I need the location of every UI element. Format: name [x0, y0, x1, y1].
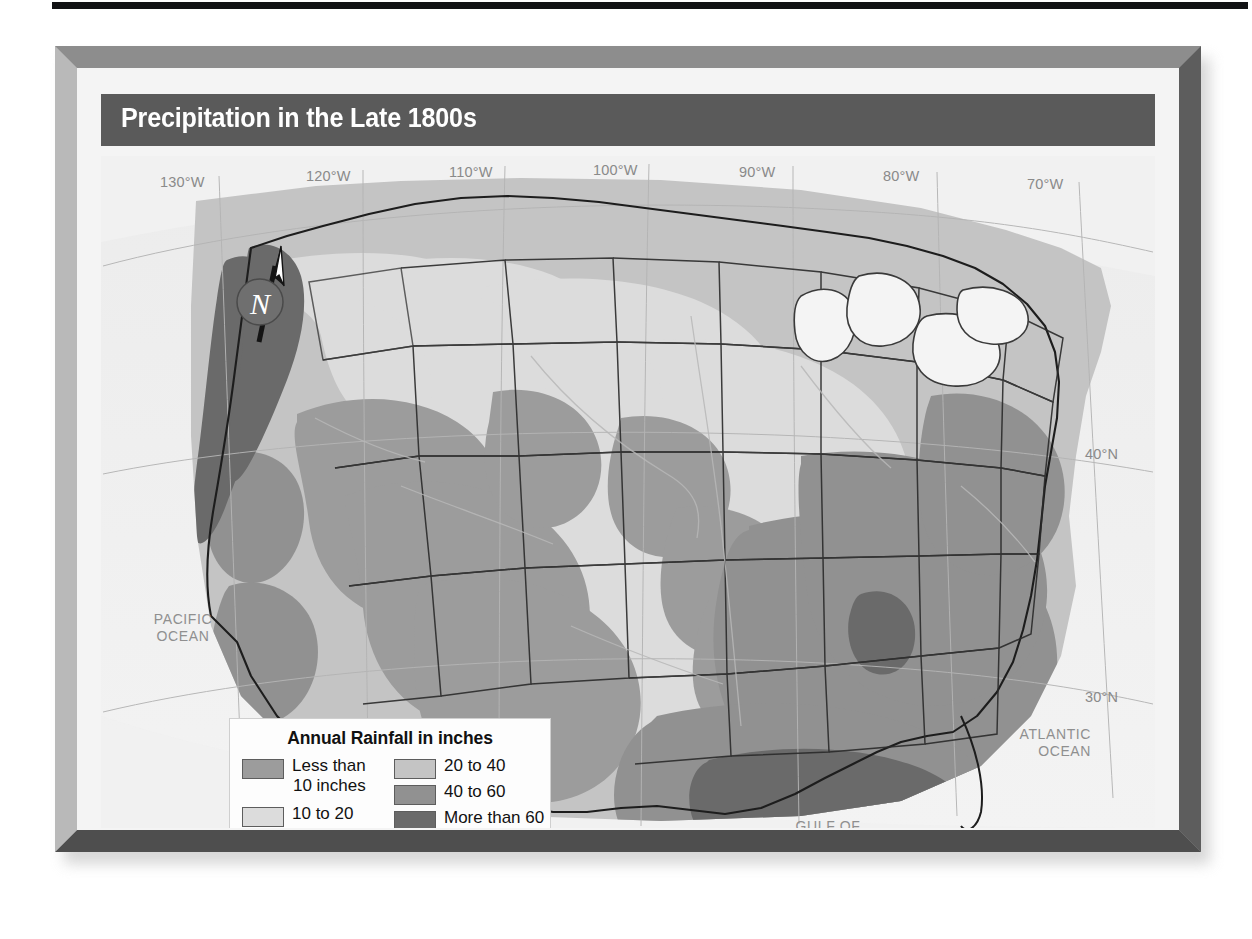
legend-swatch-20-to-40	[394, 759, 436, 779]
grid-label-30n: 30°N	[1085, 689, 1118, 705]
atlantic-ocean-line1: ATLANTIC	[981, 726, 1091, 743]
map-title: Precipitation in the Late 1800s	[121, 103, 477, 134]
legend-item-less-than-10: Less than 10 inches	[242, 756, 394, 796]
legend-label-20-to-40: 20 to 40	[444, 756, 505, 776]
pacific-ocean-line2: OCEAN	[137, 628, 229, 645]
legend-item-40-to-60: 40 to 60	[394, 782, 544, 805]
compass-north-letter: N	[249, 287, 272, 320]
grid-label-90w: 90°W	[739, 164, 775, 180]
pacific-ocean-line1: PACIFIC	[137, 611, 229, 628]
gulf-of-mexico-line1: GULF OF	[773, 818, 883, 828]
legend-swatch-10-to-20	[242, 807, 284, 827]
legend-swatch-grid: Less than 10 inches 10 to 20	[242, 756, 550, 828]
map-plate: 130°W 120°W 110°W 100°W 90°W 80°W 70°W 4…	[101, 156, 1155, 828]
map-legend: Annual Rainfall in inches Less than 10 i…	[229, 718, 551, 828]
grid-label-130w: 130°W	[160, 174, 205, 190]
grid-label-110w: 110°W	[449, 164, 493, 180]
legend-label-10-to-20: 10 to 20	[292, 804, 353, 824]
grid-label-80w: 80°W	[883, 168, 919, 184]
frame-mat: Precipitation in the Late 1800s	[77, 68, 1179, 830]
grid-label-100w: 100°W	[593, 162, 638, 178]
atlantic-ocean-line2: OCEAN	[981, 743, 1091, 760]
legend-swatch-more-than-60	[394, 811, 436, 828]
gulf-of-mexico-label: GULF OF MEXICO	[773, 818, 883, 828]
legend-label-40-to-60: 40 to 60	[444, 782, 505, 802]
legend-label-more-than-60: More than 60	[444, 808, 544, 828]
frame-bevel-bottom	[55, 830, 1201, 852]
pacific-ocean-label: PACIFIC OCEAN	[137, 611, 229, 645]
north-arrow-compass: N	[229, 238, 301, 348]
atlantic-ocean-label: ATLANTIC OCEAN	[981, 726, 1091, 760]
legend-item-20-to-40: 20 to 40	[394, 756, 544, 779]
grid-label-40n: 40°N	[1085, 446, 1118, 462]
legend-swatch-40-to-60	[394, 785, 436, 805]
legend-swatch-less-than-10	[242, 759, 284, 779]
grid-label-70w: 70°W	[1027, 176, 1063, 192]
legend-item-10-to-20: 10 to 20	[242, 804, 394, 827]
legend-title: Annual Rainfall in inches	[230, 728, 550, 749]
legend-column-right: 20 to 40 40 to 60 More than 60	[394, 756, 544, 828]
frame-bevel-top	[55, 46, 1201, 68]
title-bar: Precipitation in the Late 1800s	[101, 94, 1155, 146]
map-frame: Precipitation in the Late 1800s	[55, 46, 1201, 852]
frame-bevel-right	[1179, 46, 1201, 852]
frame-bevel-left	[55, 46, 77, 852]
page-top-rule	[52, 2, 1248, 9]
grid-label-120w: 120°W	[306, 168, 351, 184]
legend-item-more-than-60: More than 60	[394, 808, 544, 828]
legend-column-left: Less than 10 inches 10 to 20	[242, 756, 394, 828]
legend-label-less-than-10-line1: Less than	[292, 756, 366, 775]
figure-page: Precipitation in the Late 1800s	[0, 0, 1252, 939]
legend-label-less-than-10-line2: 10 inches	[292, 776, 366, 796]
